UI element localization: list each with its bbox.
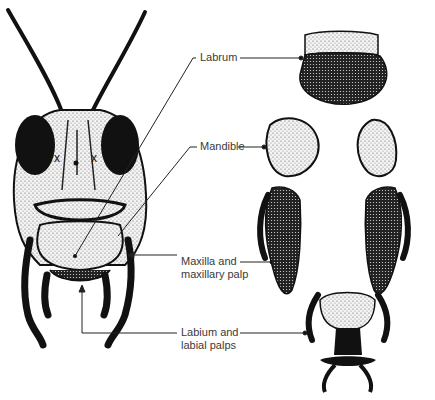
label-labium-line2: labial palps bbox=[181, 339, 239, 352]
antennae bbox=[8, 10, 145, 112]
svg-text:x: x bbox=[91, 151, 97, 165]
mandibles bbox=[266, 118, 396, 176]
label-labium-line1: Labium and bbox=[181, 326, 239, 339]
grasshopper-head: x x bbox=[14, 110, 147, 345]
label-maxilla-line1: Maxilla and bbox=[181, 255, 248, 268]
labrum-dissected bbox=[300, 31, 387, 104]
label-labrum: Labrum bbox=[200, 51, 237, 64]
svg-text:x: x bbox=[54, 151, 60, 165]
label-labium: Labium and labial palps bbox=[181, 326, 239, 352]
left-compound-eye bbox=[15, 115, 55, 175]
labium-dissected bbox=[309, 293, 388, 393]
label-mandible: Mandible bbox=[200, 140, 245, 153]
label-maxilla: Maxilla and maxillary palp bbox=[181, 255, 248, 281]
maxillae bbox=[260, 187, 408, 294]
label-maxilla-line2: maxillary palp bbox=[181, 268, 248, 281]
right-compound-eye bbox=[101, 115, 139, 175]
